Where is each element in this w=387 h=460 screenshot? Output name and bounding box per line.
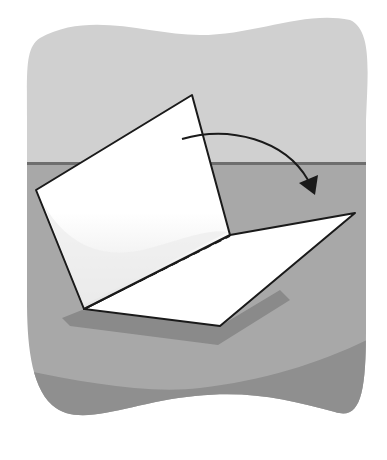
fold-illustration <box>0 0 387 460</box>
